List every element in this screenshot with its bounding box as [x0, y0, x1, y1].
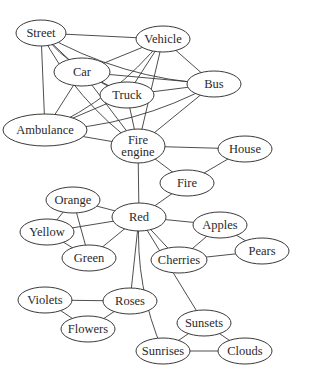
node-label: Bus [204, 77, 224, 91]
semantic-network-diagram: StreetVehicleCarBusTruckAmbulanceFireeng… [0, 0, 310, 385]
node-label: Green [74, 251, 105, 265]
node-label: Pears [248, 244, 275, 258]
node-street: Street [16, 20, 66, 46]
node-label: Car [73, 65, 92, 79]
edge-red-sunrises [138, 217, 163, 351]
node-label: Truck [112, 88, 142, 102]
node-label: Flowers [68, 322, 108, 336]
node-green: Green [62, 245, 116, 271]
node-bus: Bus [187, 71, 241, 97]
node-label: Red [129, 210, 150, 224]
node-fire: Fire [160, 170, 214, 196]
node-label: Yellow [29, 225, 65, 239]
node-label: Sunsets [185, 316, 223, 330]
node-label: Orange [55, 193, 92, 207]
node-house: House [218, 136, 272, 162]
node-label: Fire [177, 176, 198, 190]
node-cherries: Cherries [151, 247, 207, 273]
node-label: Sunrises [142, 344, 185, 358]
node-label: Violets [27, 293, 62, 307]
node-label: Clouds [227, 344, 263, 358]
node-roses: Roses [103, 288, 157, 314]
node-yellow: Yellow [20, 219, 74, 245]
node-fire-engine: Fireengine [111, 129, 165, 163]
node-red: Red [112, 203, 166, 231]
node-orange: Orange [46, 187, 100, 213]
node-label: Apples [202, 218, 238, 232]
node-car: Car [54, 58, 110, 86]
node-sunsets: Sunsets [177, 310, 231, 336]
node-clouds: Clouds [218, 338, 272, 364]
node-ambulance: Ambulance [3, 114, 87, 146]
node-label-line: engine [121, 145, 155, 159]
node-label: House [229, 142, 261, 156]
node-flowers: Flowers [61, 316, 115, 342]
node-label: Roses [115, 294, 145, 308]
node-label: Vehicle [144, 32, 182, 46]
node-label: Ambulance [16, 123, 74, 137]
node-sunrises: Sunrises [136, 338, 190, 364]
node-apples: Apples [193, 212, 247, 238]
node-pears: Pears [235, 238, 289, 264]
node-label: Cherries [158, 253, 200, 267]
node-violets: Violets [18, 287, 72, 313]
node-layer: StreetVehicleCarBusTruckAmbulanceFireeng… [3, 20, 289, 364]
node-vehicle: Vehicle [136, 26, 190, 52]
node-truck: Truck [100, 82, 154, 108]
node-label: Street [26, 26, 56, 40]
